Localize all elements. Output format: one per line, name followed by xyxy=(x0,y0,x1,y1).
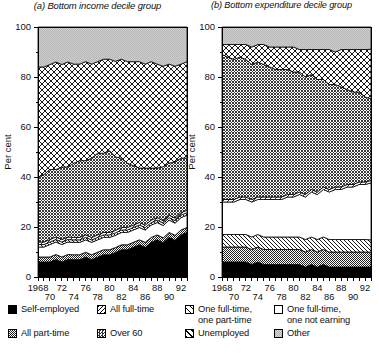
legend-swatch-diagonal-hatch-icon xyxy=(97,305,106,314)
legend-item-self-employed[interactable]: Self-employed xyxy=(8,304,79,315)
stacked-bands xyxy=(222,27,371,277)
y-tick-label: 20 xyxy=(20,221,31,232)
y-tick-label: 20 xyxy=(204,221,215,232)
legend: Self-employedAll full-timeOne full-time,… xyxy=(0,302,379,354)
x-tick-label: 76 xyxy=(81,283,91,293)
legend-item-all-full-time[interactable]: All full-time xyxy=(97,304,154,315)
y-tick-label: 40 xyxy=(20,171,31,182)
y-axis-label: Per cent xyxy=(2,134,13,170)
plot-area-b: 0204060801001968727680848892707478828690… xyxy=(184,0,379,300)
y-tick-label: 100 xyxy=(15,21,31,32)
y-tick-label: 60 xyxy=(20,121,31,132)
x-tick-label: 74 xyxy=(253,292,263,300)
x-tick-label: 82 xyxy=(300,292,310,300)
legend-label: Self-employed xyxy=(21,304,79,315)
y-tick-label: 60 xyxy=(204,121,215,132)
x-tick-label: 88 xyxy=(336,283,346,293)
x-tick-label: 90 xyxy=(164,292,174,300)
x-tick-label: 1968 xyxy=(212,283,233,293)
x-tick-label: 72 xyxy=(57,283,67,293)
legend-swatch-solid-black-icon xyxy=(8,305,17,314)
x-tick-label: 76 xyxy=(265,283,275,293)
chart-panel-a: (a) Bottom income decile group 020406080… xyxy=(0,0,195,300)
y-tick-label: 80 xyxy=(204,71,215,82)
stacked-bands xyxy=(38,27,187,277)
y-tick-label: 0 xyxy=(26,271,31,282)
legend-swatch-open-crosshatch-icon xyxy=(185,329,194,338)
legend-label: All full-time xyxy=(110,304,154,315)
legend-swatch-diagonal-slash-icon xyxy=(185,305,194,314)
x-tick-label: 72 xyxy=(241,283,251,293)
x-tick-label: 1968 xyxy=(28,283,49,293)
plot-area-a: 0204060801001968727680848892707478828690… xyxy=(0,0,195,300)
x-tick-label: 84 xyxy=(128,283,138,293)
chart-panel-b: (b) Bottom expenditure decile group 0204… xyxy=(184,0,379,300)
x-tick-label: 70 xyxy=(45,292,55,300)
y-tick-label: 0 xyxy=(210,271,215,282)
y-axis-label: Per cent xyxy=(186,134,197,170)
x-tick-label: 90 xyxy=(348,292,358,300)
x-tick-label: 84 xyxy=(312,283,322,293)
y-tick-label: 100 xyxy=(199,21,215,32)
x-tick-label: 74 xyxy=(69,292,79,300)
legend-item-one-full-time-one-not-earning[interactable]: One full-time, one not earning xyxy=(274,304,350,325)
x-tick-label: 88 xyxy=(152,283,162,293)
x-tick-label: 86 xyxy=(324,292,334,300)
legend-item-all-part-time[interactable]: All part-time xyxy=(8,328,69,339)
x-tick-label: 70 xyxy=(229,292,239,300)
x-tick-label: 78 xyxy=(92,292,102,300)
legend-label: One full-time, one not earning xyxy=(287,304,350,325)
legend-item-unemployed[interactable]: Unemployed xyxy=(185,328,249,339)
x-tick-label: 92 xyxy=(360,283,370,293)
legend-item-other[interactable]: Other xyxy=(274,328,310,339)
x-tick-label: 82 xyxy=(116,292,126,300)
legend-swatch-fine-checker-icon xyxy=(8,329,17,338)
legend-label: Unemployed xyxy=(198,328,249,339)
legend-item-one-full-time-one-part-time[interactable]: One full-time, one part-time xyxy=(185,304,252,325)
legend-label: Other xyxy=(287,328,310,339)
legend-swatch-dense-crosshatch-icon xyxy=(97,329,106,338)
x-tick-label: 78 xyxy=(276,292,286,300)
x-tick-label: 80 xyxy=(104,283,114,293)
y-tick-label: 80 xyxy=(20,71,31,82)
figure-root: (a) Bottom income decile group 020406080… xyxy=(0,0,379,354)
legend-swatch-light-stipple-icon xyxy=(274,329,283,338)
legend-swatch-white-icon xyxy=(274,305,283,314)
x-tick-label: 86 xyxy=(140,292,150,300)
legend-label: Over 60 xyxy=(110,328,142,339)
y-tick-label: 40 xyxy=(204,171,215,182)
legend-label: All part-time xyxy=(21,328,69,339)
x-tick-label: 80 xyxy=(288,283,298,293)
legend-label: One full-time, one part-time xyxy=(198,304,252,325)
legend-item-over-60[interactable]: Over 60 xyxy=(97,328,142,339)
